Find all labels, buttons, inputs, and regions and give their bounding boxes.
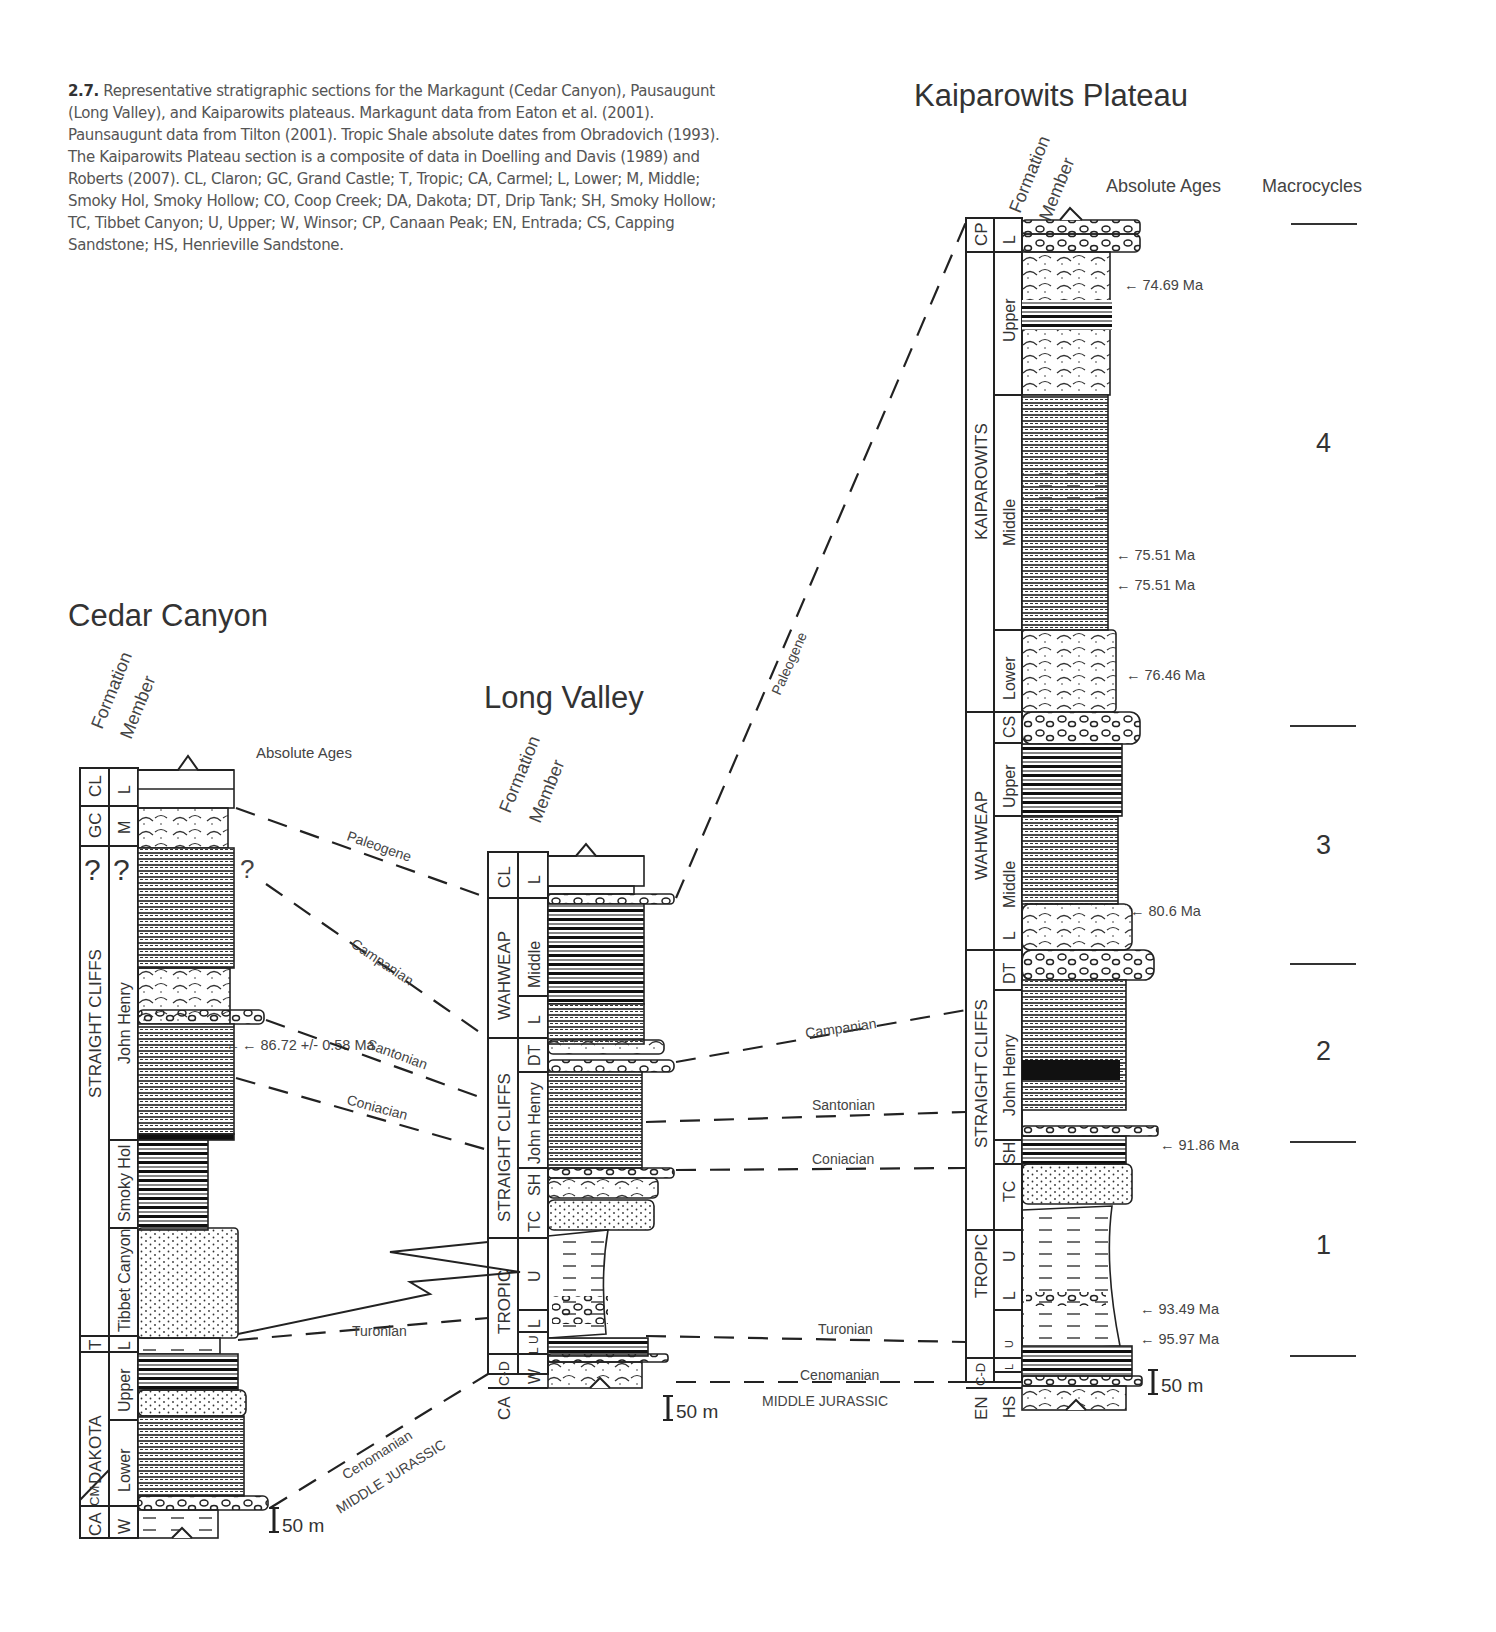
age-76-46: ← 76.46 Ma — [1126, 667, 1206, 683]
section-title-kaip: Kaiparowits Plateau — [914, 78, 1188, 113]
macrocycle-2: 2 — [1316, 1036, 1331, 1066]
fm-cl: CL — [495, 866, 514, 888]
age-93-49: ← 93.49 Ma — [1140, 1301, 1220, 1317]
mem-john-henry: John Henry — [526, 1082, 543, 1164]
mem-tibbet-canyon: Tibbet Canyon — [116, 1229, 133, 1332]
mem-l4: L — [1003, 1364, 1015, 1370]
scale-bar-long: 50 m — [663, 1396, 718, 1422]
mem-upper: Upper — [116, 1368, 133, 1412]
header-absolute-ages: Absolute Ages — [256, 744, 352, 761]
mem-u2: U — [1003, 1340, 1015, 1348]
mem-cs: CS — [1001, 716, 1018, 738]
age-91-86: ← 91.86 Ma — [1160, 1137, 1240, 1153]
fm-gc: GC — [86, 813, 105, 839]
arrow-left-icon: ← — [226, 1037, 241, 1053]
mem-sh: SH — [526, 1174, 543, 1196]
mem-l2: L — [1001, 931, 1018, 940]
mem-dt: DT — [526, 1044, 543, 1066]
fm-kaiparowits: KAIPAROWITS — [972, 423, 991, 540]
fm-c-d: C-D — [973, 1363, 988, 1386]
mem-w: W — [526, 1368, 543, 1384]
mem-u: U — [526, 1270, 543, 1282]
lithology-kaiparowits — [1022, 208, 1158, 1410]
fm-wahweap: WAHWEAP — [972, 791, 991, 880]
macrocycles — [1290, 224, 1357, 1356]
macrocycle-3: 3 — [1316, 830, 1331, 860]
stage-paleogene: Paleogene — [768, 629, 810, 697]
mem-l: L — [526, 875, 543, 884]
section-cedar-canyon: Cedar Canyon Formation Member Absolute A… — [68, 598, 376, 1538]
scale-label: 50 m — [676, 1401, 718, 1422]
fm-cl: CL — [86, 775, 105, 797]
mem-u2: U — [527, 1335, 541, 1344]
age-75-51a: ← 75.51 Ma — [1116, 547, 1196, 563]
fm-straight-cliffs: STRAIGHT CLIFFS — [972, 999, 991, 1148]
mem-sh: SH — [1001, 1142, 1018, 1164]
stage-santonian: Santonian — [812, 1097, 875, 1113]
age-80-6: ← 80.6 Ma — [1130, 903, 1202, 919]
mem-middle: Middle — [1001, 499, 1018, 546]
stage-turonian: Turonian — [352, 1323, 407, 1339]
mem-question: ? — [113, 853, 130, 886]
mem-john-henry: John Henry — [1001, 1034, 1018, 1116]
mem-tc: TC — [526, 1211, 543, 1232]
section-title-cedar: Cedar Canyon — [68, 598, 268, 633]
fm-tropic: TROPIC — [972, 1234, 991, 1298]
fm-cp: CP — [972, 222, 991, 246]
mem-l2: L — [116, 1341, 133, 1350]
stage-turonian: Turonian — [818, 1321, 873, 1337]
fm-en: EN — [972, 1396, 991, 1420]
section-long-valley: Long Valley Formation Member CL WAHWEAP … — [484, 680, 718, 1422]
mem-l4: L — [527, 1347, 541, 1354]
mem-middle: Middle — [526, 941, 543, 988]
mem-w: W — [116, 1518, 133, 1534]
mem-smoky-hol: Smoky Hol — [116, 1145, 133, 1222]
stage-campanian: Campanian — [804, 1015, 877, 1041]
question-mark: ? — [240, 854, 254, 884]
mem-m: M — [116, 821, 133, 834]
stage-coniacian: Coniacian — [812, 1151, 874, 1167]
mem-l3: L — [1001, 1291, 1018, 1300]
stage-middle-jurassic: MIDDLE JURASSIC — [762, 1393, 888, 1409]
header-absolute-ages: Absolute Ages — [1106, 176, 1221, 196]
mem-upper: Upper — [1001, 298, 1018, 342]
scale-label: 50 m — [1161, 1375, 1203, 1396]
fm-tropic: TROPIC — [495, 1270, 514, 1334]
mem-middle2: Middle — [1001, 861, 1018, 908]
fm-ca: CA — [86, 1512, 105, 1536]
fm-c-d: C-D — [496, 1361, 512, 1386]
fm-question: ? — [84, 853, 101, 886]
scale-bar-kaip: 50 m — [1148, 1370, 1203, 1396]
scale-bar-cedar: 50 m — [269, 1508, 324, 1536]
mem-lower: Lower — [116, 1448, 133, 1492]
macrocycle-4: 4 — [1316, 428, 1331, 458]
mem-upper2: Upper — [1001, 764, 1018, 808]
mem-john-henry: John Henry — [116, 982, 133, 1064]
age-74-69: ← 74.69 Ma — [1124, 277, 1204, 293]
fm-dakota: DAKOTA — [86, 1415, 105, 1484]
mem-lower: Lower — [1001, 656, 1018, 700]
fm-wahweap: WAHWEAP — [495, 931, 514, 1020]
mem-tc: TC — [1001, 1181, 1018, 1202]
mem-dt: DT — [1001, 962, 1018, 984]
mem-l: L — [1001, 235, 1018, 244]
stage-campanian: Campanian — [348, 935, 416, 988]
fm-cm: CM — [87, 1486, 102, 1506]
fm-straight-cliffs: STRAIGHT CLIFFS — [86, 949, 105, 1098]
mem-l3: L — [526, 1319, 543, 1328]
age-cedar-0: ← 86.72 +/- 0.58 Ma — [242, 1037, 376, 1053]
absolute-ages-kaip: ← 74.69 Ma ← 75.51 Ma ← 75.51 Ma ← 76.46… — [1116, 277, 1240, 1347]
stratigraphic-figure: Cedar Canyon Formation Member Absolute A… — [0, 0, 1496, 1632]
mem-hs: HS — [1001, 1396, 1018, 1418]
fm-ca: CA — [495, 1396, 514, 1420]
lithology-long — [548, 844, 674, 1388]
mem-l2: L — [526, 1015, 543, 1024]
mem-u: U — [1001, 1250, 1018, 1262]
age-75-51b: ← 75.51 Ma — [1116, 577, 1196, 593]
fm-tropic: T — [86, 1340, 105, 1350]
scale-label: 50 m — [282, 1515, 324, 1536]
section-kaiparowits: Kaiparowits Plateau Formation Member Abs… — [914, 78, 1362, 1420]
fm-straight-cliffs: STRAIGHT CLIFFS — [495, 1073, 514, 1222]
section-title-long: Long Valley — [484, 680, 644, 715]
stage-cenomanian: Cenomanian — [800, 1367, 879, 1383]
